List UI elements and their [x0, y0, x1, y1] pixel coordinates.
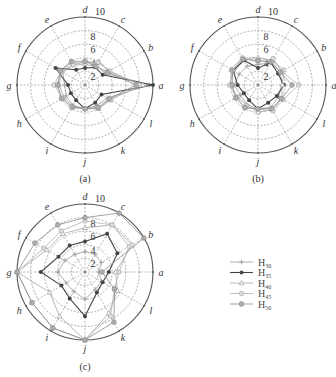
axis-label-i: i	[219, 145, 222, 156]
axis-label-c: c	[121, 14, 126, 25]
axis-label-f: f	[191, 42, 195, 53]
ring-tick: 8	[264, 31, 269, 42]
axis-label-k: k	[121, 332, 126, 343]
axis-label-b: b	[148, 42, 153, 53]
axis-label-h: h	[17, 118, 22, 129]
axis-label-g: g	[7, 267, 12, 278]
axis-label-d: d	[256, 4, 262, 15]
radar-figure: abcdefghijkl246810(a)abcdefghijkl246810(…	[0, 0, 336, 377]
axis-label-j: j	[255, 156, 260, 167]
radar-chart-a: abcdefghijkl246810(a)	[7, 4, 164, 186]
axis-label-d: d	[83, 191, 89, 202]
axis-label-g: g	[7, 80, 12, 91]
axis-label-h: h	[190, 118, 195, 129]
ring-tick: 10	[268, 6, 278, 17]
ring-tick: 8	[91, 31, 96, 42]
axis-label-h: h	[17, 305, 22, 316]
axis-label-i: i	[46, 145, 49, 156]
chart-caption: (c)	[79, 361, 90, 373]
axis-label-k: k	[121, 145, 126, 156]
axis-label-e: e	[218, 14, 223, 25]
radar-chart-b: abcdefghijkl246810(b)	[180, 4, 336, 186]
axis-label-l: l	[149, 118, 152, 129]
chart-caption: (b)	[252, 173, 264, 185]
axis-label-e: e	[45, 201, 50, 212]
ring-tick: 2	[91, 71, 96, 82]
ring-tick: 6	[264, 44, 269, 55]
axis-label-g: g	[180, 80, 185, 91]
axis-label-a: a	[159, 267, 164, 278]
axis-label-i: i	[46, 332, 49, 343]
ring-tick: 10	[95, 6, 105, 17]
series-H35	[39, 232, 120, 318]
legend-label: H50	[258, 299, 271, 311]
axis-label-c: c	[121, 201, 126, 212]
axis-label-l: l	[149, 305, 152, 316]
axis-label-d: d	[83, 4, 89, 15]
axis-label-c: c	[294, 14, 299, 25]
ring-tick: 2	[91, 258, 96, 269]
axis-label-l: l	[322, 118, 325, 129]
ring-tick: 10	[95, 193, 105, 204]
ring-tick: 6	[91, 44, 96, 55]
axis-label-a: a	[332, 80, 336, 91]
chart-caption: (a)	[79, 173, 90, 185]
ring-tick: 6	[91, 231, 96, 242]
radar-chart-c: abcdefghijkl246810(c)	[7, 191, 164, 374]
series-H50	[15, 211, 146, 342]
axis-label-j: j	[82, 343, 87, 354]
axis-label-f: f	[18, 42, 22, 53]
axis-label-b: b	[321, 42, 326, 53]
axis-label-b: b	[148, 229, 153, 240]
axis-label-f: f	[18, 229, 22, 240]
axis-label-k: k	[294, 145, 299, 156]
axis-label-j: j	[82, 156, 87, 167]
legend: H30H35H40H45H50	[230, 257, 271, 311]
axis-label-e: e	[45, 14, 50, 25]
axis-label-a: a	[159, 80, 164, 91]
ring-tick: 2	[264, 71, 269, 82]
